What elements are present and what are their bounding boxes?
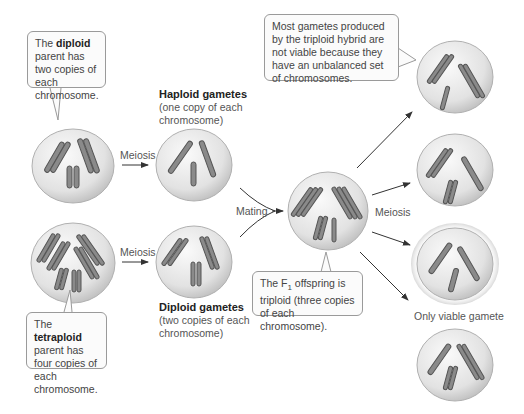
diploid-gametes-label: Diploid gametes (two copies of each chro…	[159, 301, 259, 340]
haploid-gametes-title: Haploid gametes	[159, 88, 247, 100]
haploid-gamete-cell	[156, 129, 232, 201]
triploid-gamete-cell-4	[417, 329, 493, 401]
meiosis-label-top: Meiosis	[120, 149, 156, 162]
diploid-parent-cell	[32, 129, 114, 203]
callout-text: Most gametes produced by the triploid hy…	[272, 20, 385, 84]
tetraploid-parent-callout: The tetraploid parent has four copies of…	[26, 312, 107, 369]
callout-text: parent has two copies of each chromosome…	[35, 50, 99, 101]
diploid-gametes-title: Diploid gametes	[159, 301, 244, 313]
diploid-gametes-desc: (two copies of each chromosome)	[159, 314, 249, 339]
triploid-offspring-cell	[288, 172, 368, 250]
meiosis-label-bottom: Meiosis	[120, 246, 156, 259]
triploid-gamete-cell-2	[417, 134, 493, 206]
haploid-gametes-label: Haploid gametes (one copy of each chromo…	[159, 88, 259, 127]
triploid-gamete-cell-1	[417, 41, 493, 113]
unbalanced-gametes-callout: Most gametes produced by the triploid hy…	[264, 14, 399, 81]
callout-text: The	[35, 37, 56, 49]
haploid-gametes-desc: (one copy of each chromosome)	[159, 101, 242, 126]
meiosis-label-right: Meiosis	[375, 206, 411, 219]
diploid-gamete-cell	[156, 226, 232, 298]
diploid-parent-callout: The diploid parent has two copies of eac…	[27, 31, 106, 88]
callout-bold-term: tetraploid	[34, 331, 82, 343]
callout-text: The F	[260, 277, 287, 289]
tetraploid-parent-cell	[31, 223, 115, 303]
only-viable-gamete-label: Only viable gamete	[414, 310, 504, 323]
f1-offspring-callout: The F1 offspring is triploid (three copi…	[252, 271, 363, 316]
callout-text: The	[34, 318, 52, 330]
callout-bold-term: diploid	[56, 37, 90, 49]
mating-label: Mating	[236, 205, 268, 218]
viable-gamete-cell	[411, 223, 499, 305]
callout-text: parent has four copies of each chromosom…	[34, 344, 98, 395]
